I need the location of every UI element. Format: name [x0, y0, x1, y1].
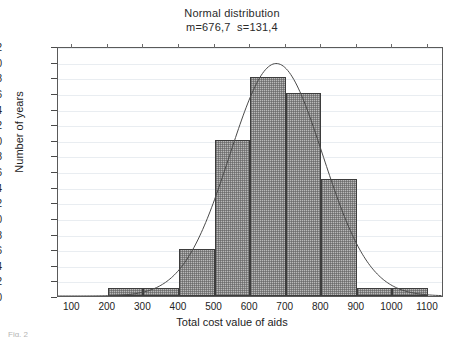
- figure-caption: Fig. 2: [8, 330, 28, 337]
- y-axis-tick-mark: [51, 219, 57, 220]
- y-axis-tick-label: 26: [0, 88, 2, 99]
- y-axis-tick-mark: [51, 266, 57, 267]
- x-axis-tick-mark: [142, 44, 143, 48]
- y-axis-tick-label: 14: [0, 182, 2, 193]
- y-axis-tick-mark: [51, 47, 57, 48]
- x-axis-tick-mark: [107, 44, 108, 48]
- y-axis-tick-label: 32: [0, 42, 2, 53]
- y-axis-tick-mark: [51, 281, 57, 282]
- y-axis-tick-label: 8: [0, 229, 2, 240]
- y-axis-tick-mark: [51, 94, 57, 95]
- x-axis-label: Total cost value of aids: [0, 316, 464, 328]
- y-axis-tick-mark: [51, 297, 57, 298]
- x-axis-tick-label: 1100: [404, 301, 450, 312]
- y-axis-tick-mark: [51, 172, 57, 173]
- y-axis-tick-mark: [51, 235, 57, 236]
- y-axis-tick-label: 10: [0, 213, 2, 224]
- y-axis-tick-mark: [51, 125, 57, 126]
- y-axis-tick-label: 16: [0, 167, 2, 178]
- y-axis-tick-mark: [51, 188, 57, 189]
- y-axis-tick-label: 20: [0, 135, 2, 146]
- x-axis-tick-mark: [391, 44, 392, 48]
- plot-area: [57, 47, 443, 297]
- x-axis-tick-mark: [178, 44, 179, 48]
- y-axis-tick-label: 24: [0, 104, 2, 115]
- chart-title-block: Normal distribution m=676,7 s=131,4: [0, 6, 464, 34]
- y-axis-tick-mark: [51, 141, 57, 142]
- x-axis-tick-mark: [320, 44, 321, 48]
- y-axis-tick-label: 6: [0, 245, 2, 256]
- y-axis-tick-mark: [51, 203, 57, 204]
- y-axis-tick-label: 30: [0, 57, 2, 68]
- y-axis-tick-label: 2: [0, 276, 2, 287]
- y-axis-tick-mark: [51, 63, 57, 64]
- x-axis-tick-mark: [427, 44, 428, 48]
- x-axis-tick-mark: [71, 44, 72, 48]
- x-axis-tick-mark: [214, 44, 215, 48]
- x-axis-tick-mark: [249, 44, 250, 48]
- y-axis-tick-label: 0: [0, 292, 2, 303]
- normal-curve: [58, 48, 442, 296]
- y-axis-tick-label: 28: [0, 73, 2, 84]
- y-axis-tick-mark: [51, 156, 57, 157]
- chart-subtitle: m=676,7 s=131,4: [0, 20, 464, 34]
- y-axis-tick-mark: [51, 78, 57, 79]
- y-axis-tick-mark: [51, 250, 57, 251]
- histogram-figure: Normal distribution m=676,7 s=131,4 0246…: [0, 0, 464, 337]
- y-axis-tick-label: 12: [0, 198, 2, 209]
- x-axis-tick-mark: [356, 44, 357, 48]
- y-axis-tick-label: 18: [0, 151, 2, 162]
- y-axis-tick-label: 4: [0, 260, 2, 271]
- y-axis-label: Number of years: [13, 47, 25, 217]
- x-axis-tick-mark: [285, 44, 286, 48]
- y-axis-tick-mark: [51, 110, 57, 111]
- y-axis-tick-label: 22: [0, 120, 2, 131]
- chart-title: Normal distribution: [0, 6, 464, 20]
